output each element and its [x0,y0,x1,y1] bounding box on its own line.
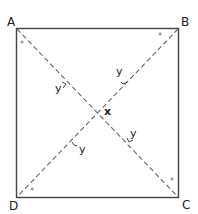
square-diagram [0,0,198,214]
angle-mark-4 [72,142,77,146]
angle-label-2: y [116,66,123,77]
vertex-label-d: D [9,200,18,212]
angle-label-4: y [79,144,86,155]
angle-label-1: y [55,83,62,94]
vertex-label-b: B [181,16,189,28]
intersection-label: x [104,106,111,117]
vertex-label-c: C [182,199,190,211]
corner-mark-d: * [30,188,34,196]
vertex-label-a: A [7,16,15,28]
corner-mark-a: * [20,41,24,49]
angle-mark-1 [62,82,66,88]
corner-mark-b: * [158,33,162,41]
angle-label-3: y [130,128,137,139]
corner-mark-c: * [170,178,174,186]
